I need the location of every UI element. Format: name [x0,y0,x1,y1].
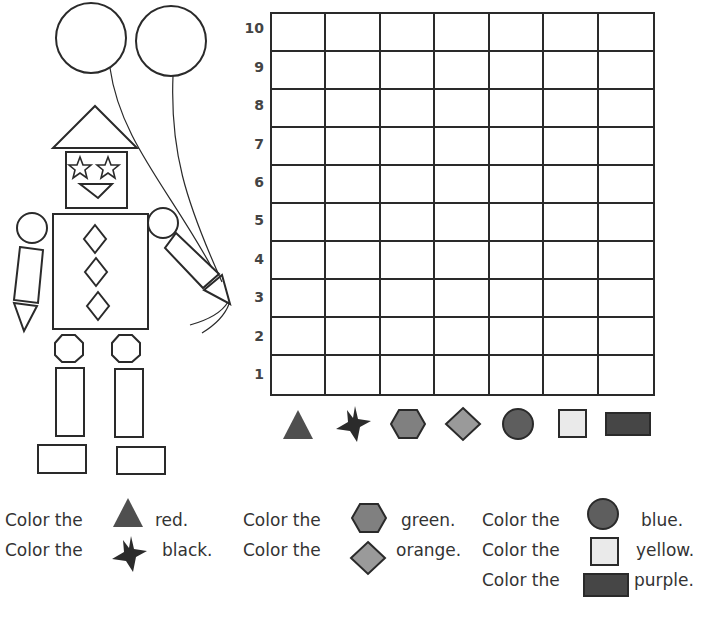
grid-cell[interactable] [326,128,380,166]
grid-cell[interactable] [272,280,326,318]
grid-cell[interactable] [272,318,326,356]
grid-cell[interactable] [326,52,380,90]
grid-cell[interactable] [435,90,489,128]
instruction-color-word: purple. [634,570,694,590]
grid-cell[interactable] [544,128,598,166]
grid-cell[interactable] [490,318,544,356]
grid-cell[interactable] [544,204,598,242]
grid-cell[interactable] [599,280,653,318]
hexagon-icon [350,502,388,534]
robot-drawing [0,0,250,480]
grid-cell[interactable] [326,90,380,128]
robot-left-shoulder [17,213,47,243]
instruction-color-word: blue. [641,510,683,530]
grid-cell[interactable] [490,90,544,128]
grid-cell[interactable] [435,356,489,394]
grid-cell[interactable] [272,356,326,394]
instruction-prefix: Color the [482,570,560,590]
star-icon [333,404,373,444]
grid-cell[interactable] [381,52,435,90]
grid-cell[interactable] [490,14,544,52]
grid-cell[interactable] [599,166,653,204]
grid-cell[interactable] [381,242,435,280]
grid-cell[interactable] [599,14,653,52]
diamond-icon [444,406,482,442]
grid-cell[interactable] [326,280,380,318]
grid-cell[interactable] [326,14,380,52]
grid-cell[interactable] [381,166,435,204]
grid-cell[interactable] [326,204,380,242]
grid-cell[interactable] [599,204,653,242]
grid-cell[interactable] [544,242,598,280]
grid-cell[interactable] [599,318,653,356]
grid-cell[interactable] [599,356,653,394]
balloon-string [173,76,222,282]
grid-cell[interactable] [490,52,544,90]
grid-cell[interactable] [544,318,598,356]
grid-cell[interactable] [326,166,380,204]
grid-cell[interactable] [381,204,435,242]
grid-cell[interactable] [490,242,544,280]
grid-cell[interactable] [544,90,598,128]
rectangle-icon [604,410,652,438]
grid-cell[interactable] [490,280,544,318]
grid-cell[interactable] [326,356,380,394]
grid-cell[interactable] [272,14,326,52]
grid-cell[interactable] [599,242,653,280]
grid-cell[interactable] [544,166,598,204]
column-circle [490,400,545,448]
triangle-icon [281,407,315,441]
grid-cell[interactable] [544,280,598,318]
grid-cell[interactable] [490,204,544,242]
instruction-color-word: green. [401,510,456,530]
hexagon-icon [389,408,427,440]
grid-cell[interactable] [435,318,489,356]
instruction-prefix: Color the [482,510,560,530]
grid-cell[interactable] [435,52,489,90]
circle-icon [500,406,536,442]
grid-cell[interactable] [435,166,489,204]
robot-left-joint-octagon [55,335,83,362]
grid-cell[interactable] [272,90,326,128]
row-label: 10 [238,20,264,36]
grid-cell[interactable] [544,52,598,90]
square-icon [557,408,589,440]
grid-cell[interactable] [381,318,435,356]
balloon-left [56,3,126,73]
grid-cell[interactable] [272,128,326,166]
grid-cell[interactable] [272,166,326,204]
grid-cell[interactable] [326,318,380,356]
balloons [56,3,229,333]
balloon-right [136,6,206,76]
grid-cell[interactable] [490,166,544,204]
column-triangle [270,400,325,448]
row-label: 1 [238,366,264,382]
grid-cell[interactable] [381,90,435,128]
instruction-prefix: Color the [243,510,321,530]
column-star [325,400,380,448]
grid-cell[interactable] [272,242,326,280]
grid-cell[interactable] [326,242,380,280]
balloon-string [202,304,229,333]
robot-right-leg [115,369,143,437]
grid-cell[interactable] [381,128,435,166]
grid-cell[interactable] [544,356,598,394]
row-label: 4 [238,251,264,267]
grid-cell[interactable] [435,280,489,318]
grid-cell[interactable] [490,356,544,394]
grid-cell[interactable] [381,280,435,318]
grid-cell[interactable] [435,242,489,280]
grid-cell[interactable] [599,90,653,128]
grid-cell[interactable] [599,128,653,166]
grid-cell[interactable] [435,128,489,166]
robot-left-arm [14,247,43,303]
grid-cell[interactable] [490,128,544,166]
grid-cell[interactable] [272,204,326,242]
grid-cell[interactable] [599,52,653,90]
grid-cell[interactable] [544,14,598,52]
grid-cell[interactable] [272,52,326,90]
grid-cell[interactable] [435,14,489,52]
grid-cell[interactable] [435,204,489,242]
grid-cell[interactable] [381,356,435,394]
grid-cell[interactable] [381,14,435,52]
